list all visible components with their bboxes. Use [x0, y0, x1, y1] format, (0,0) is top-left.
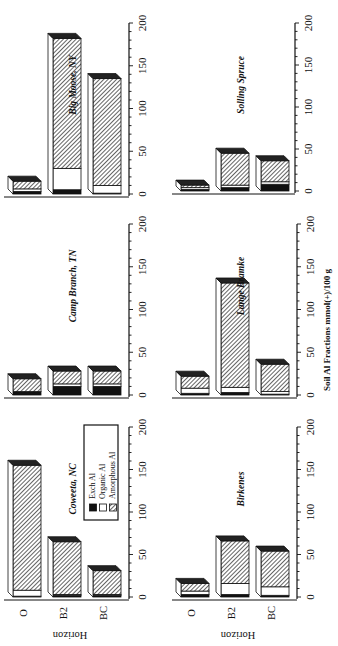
chart-svg: 050100150200OB2BCCoweeta, NCHorizon05010…	[0, 0, 338, 646]
tick-label: 100	[136, 301, 148, 318]
tick-label: 200	[136, 14, 148, 31]
chart-figure: 050100150200OB2BCCoweeta, NCHorizon05010…	[0, 0, 338, 646]
tick-label: 50	[302, 143, 314, 155]
panel-birkenes: 050100150200OB2BCBirkenesHorizon	[172, 418, 316, 640]
panel-camp-branch-tn: 050100150200Camp Branch, TN	[4, 215, 148, 398]
tick-label: 150	[136, 57, 148, 74]
x-axis-title: Soil Al Fractions mmol(+)/100 g	[322, 268, 332, 391]
tick-label: 50	[304, 346, 316, 358]
panel-title: Birkenes	[236, 471, 246, 507]
tick-label: 200	[304, 215, 316, 232]
tick-label: 100	[302, 98, 314, 115]
bar-o	[176, 371, 209, 395]
horizon-axis-label: Horizon	[220, 630, 255, 641]
tick-label: 0	[136, 392, 148, 398]
tick-label: 0	[302, 188, 314, 194]
legend-label: Organic Al	[98, 463, 107, 499]
panel-solling-spruce: 050100150200Solling Spruce	[172, 14, 314, 194]
panel-lange-bramke: 050100150200Lange Bramke	[172, 215, 316, 398]
bar-bc	[256, 359, 289, 395]
tick-label: 150	[136, 461, 148, 478]
tick-label: 100	[136, 100, 148, 117]
tick-label: 50	[136, 145, 148, 157]
tick-label: 150	[304, 258, 316, 275]
panel-title: Lange Bramke	[236, 256, 246, 316]
panel-title: Solling Spruce	[236, 55, 246, 114]
tick-label: 150	[304, 461, 316, 478]
tick-label: 100	[304, 301, 316, 318]
tick-label: 200	[304, 418, 316, 435]
category-label: O	[18, 609, 29, 617]
bar-o	[8, 374, 41, 395]
bar-o	[176, 578, 209, 597]
category-label: BC	[98, 606, 109, 620]
bar-o	[8, 176, 41, 194]
tick-label: 50	[304, 549, 316, 561]
legend-swatch	[100, 504, 107, 511]
category-label: B2	[226, 607, 237, 619]
category-label: B2	[58, 607, 69, 619]
tick-label: 50	[136, 346, 148, 358]
tick-label: 150	[136, 258, 148, 275]
panel-title: Big Moose, NY	[68, 54, 78, 116]
tick-label: 0	[136, 594, 148, 600]
tick-label: 200	[302, 14, 314, 31]
panel-title: Coweeta, NC	[68, 463, 78, 515]
legend-label: Amorphous Al	[108, 451, 117, 499]
bar-bc	[256, 156, 289, 191]
tick-label: 100	[136, 503, 148, 520]
bar-bc	[88, 366, 121, 395]
tick-label: 50	[136, 549, 148, 561]
legend: Exch AlOrganic AlAmorphous Al	[84, 425, 118, 520]
tick-label: 0	[136, 191, 148, 197]
tick-label: 200	[136, 215, 148, 232]
category-label: BC	[266, 606, 277, 620]
legend-swatch	[90, 504, 97, 511]
tick-label: 100	[304, 503, 316, 520]
bar-bc	[88, 566, 121, 597]
tick-label: 150	[302, 56, 314, 73]
panel-coweeta-nc: 050100150200OB2BCCoweeta, NCHorizon	[4, 418, 148, 640]
panel-big-moose-ny: 050100150200Big Moose, NY	[4, 14, 148, 197]
tick-label: 200	[136, 418, 148, 435]
bar-b2	[48, 537, 81, 597]
legend-label: Exch Al	[88, 472, 97, 499]
bar-b2	[216, 148, 249, 191]
bar-bc	[88, 74, 121, 194]
bar-bc	[256, 546, 289, 597]
legend-swatch	[110, 504, 117, 511]
bar-b2	[48, 366, 81, 395]
bar-b2	[216, 536, 249, 597]
bar-o	[8, 460, 41, 597]
tick-label: 0	[304, 392, 316, 398]
bar-o	[176, 180, 209, 191]
panel-title: Camp Branch, TN	[68, 249, 78, 323]
horizon-axis-label: Horizon	[52, 630, 87, 641]
category-label: O	[186, 609, 197, 617]
tick-label: 0	[304, 594, 316, 600]
